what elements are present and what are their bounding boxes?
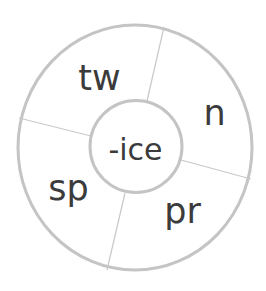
center-label: -ice xyxy=(108,132,162,167)
segment-label-pr: pr xyxy=(164,191,201,231)
divider-bottom xyxy=(107,193,125,270)
segment-label-sp: sp xyxy=(48,168,88,208)
word-wheel-diagram: tw n pr sp -ice xyxy=(0,0,266,291)
divider-left xyxy=(19,118,91,136)
segment-label-tw: tw xyxy=(78,58,120,98)
divider-top xyxy=(147,27,164,101)
segment-label-n: n xyxy=(203,93,225,133)
divider-right xyxy=(181,160,251,179)
